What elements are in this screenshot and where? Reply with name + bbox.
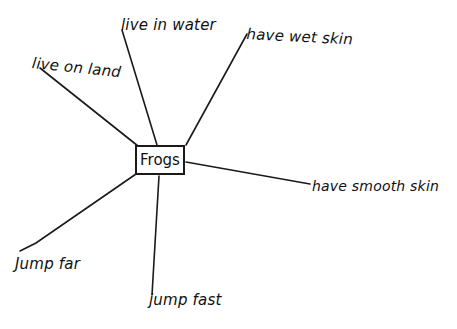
line-live-on-land	[40, 68, 138, 146]
branch-label-live-in-water: live in water	[121, 16, 216, 34]
center-node-frogs: Frogs	[135, 145, 185, 175]
branch-label-jump-fast: jump fast	[149, 291, 222, 309]
line-live-in-water	[122, 30, 157, 145]
branch-label-have-smooth-skin: have smooth skin	[312, 178, 439, 194]
line-have-smooth-skin	[186, 162, 310, 184]
branch-label-jump-far: Jump far	[15, 255, 80, 273]
center-label: Frogs	[140, 151, 180, 169]
line-jump-fast	[152, 176, 159, 295]
concept-web-lines	[0, 0, 457, 329]
line-jump-far	[20, 174, 136, 251]
line-have-wet-skin	[186, 34, 247, 145]
